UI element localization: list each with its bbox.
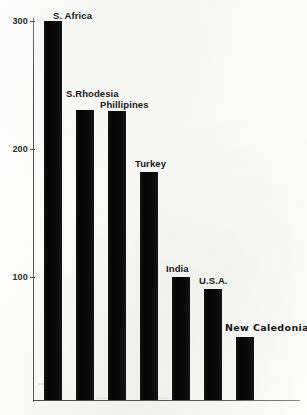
bar-turkey [140, 172, 158, 400]
y-tick-mark-100 [30, 277, 35, 278]
bar-new-caledonia [236, 337, 254, 400]
bar-label-phillipines: Phillipines [100, 99, 149, 110]
chart-page: 300 200 100 S. Africa S.Rhodesia Phillip… [0, 0, 307, 415]
bar-chart-plot-area: 300 200 100 S. Africa S.Rhodesia Phillip… [0, 0, 307, 415]
bar-india [172, 277, 190, 400]
y-axis-line [33, 18, 34, 402]
bar-phillipines [108, 111, 126, 400]
bar-label-india: India [166, 263, 189, 274]
bar-label-turkey: Turkey [135, 158, 166, 169]
bar-label-s-rhodesia: S.Rhodesia [66, 88, 119, 99]
y-tick-mark-200 [30, 149, 35, 150]
bar-label-s-africa: S. Africa [53, 10, 92, 21]
y-tick-label-100: 100 [12, 272, 28, 282]
bar-s-rhodesia [76, 110, 94, 400]
x-axis-baseline [33, 400, 300, 401]
bar-label-usa: U.S.A. [199, 275, 228, 286]
y-tick-mark-300 [30, 21, 35, 22]
y-tick-label-200: 200 [12, 144, 28, 154]
y-tick-label-300: 300 [12, 16, 28, 26]
bar-s-africa [44, 21, 62, 400]
bar-label-new-caledonia: New Caledonia [225, 322, 307, 333]
scan-smudge [158, 397, 170, 399]
bar-usa [204, 289, 222, 400]
